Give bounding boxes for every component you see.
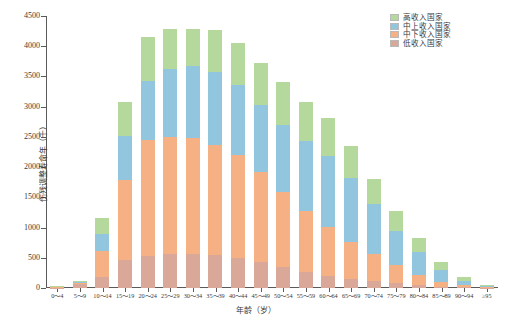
- bar-column[interactable]: [254, 63, 268, 288]
- bar-column[interactable]: [480, 285, 494, 288]
- legend-item[interactable]: 低收入国家: [390, 40, 451, 48]
- bar-segment: [208, 72, 222, 145]
- bar-segment: [412, 285, 426, 288]
- x-tick-label: 55～59: [297, 293, 315, 299]
- y-tick-label: 500: [28, 254, 46, 262]
- bar-column[interactable]: [50, 286, 64, 288]
- bar-segment: [186, 254, 200, 288]
- legend-swatch: [390, 31, 399, 38]
- legend-label: 中下收入国家: [403, 31, 451, 39]
- legend: 高收入国家中上收入国家中下收入国家低收入国家: [390, 14, 451, 47]
- bar-segment: [254, 105, 268, 172]
- bar-segment: [412, 238, 426, 252]
- bar-column[interactable]: [434, 262, 448, 288]
- x-tick-label: 30～34: [184, 293, 202, 299]
- bar-segment: [299, 272, 313, 288]
- bar-segment: [186, 29, 200, 66]
- bar-column[interactable]: [344, 146, 358, 288]
- legend-swatch: [390, 40, 399, 47]
- bar-segment: [276, 82, 290, 125]
- bar-column[interactable]: [231, 43, 245, 288]
- x-tick-label: 25～29: [161, 293, 179, 299]
- y-tick-label: 1000: [24, 224, 46, 232]
- bar-column[interactable]: [412, 238, 426, 288]
- x-tick-label: 70～74: [365, 293, 383, 299]
- y-tick-label: 3500: [24, 72, 46, 80]
- y-tick-label: 0: [36, 284, 46, 292]
- x-axis-line: [46, 287, 498, 288]
- bar-column[interactable]: [73, 281, 87, 288]
- legend-swatch: [390, 14, 399, 21]
- bar-segment: [299, 102, 313, 142]
- bar-segment: [367, 204, 381, 254]
- bar-segment: [141, 37, 155, 82]
- bar-segment: [276, 192, 290, 268]
- x-tick-label: 15～19: [116, 293, 134, 299]
- bar-segment: [321, 276, 335, 288]
- y-axis-title: 伤残调整寿命年（千）: [37, 122, 48, 202]
- x-tick-label: 90～94: [455, 293, 473, 299]
- bar-column[interactable]: [163, 29, 177, 288]
- bar-segment: [344, 279, 358, 288]
- x-tick-label: 10～14: [93, 293, 111, 299]
- bar-column[interactable]: [208, 30, 222, 288]
- bar-segment: [321, 118, 335, 155]
- bar-segment: [118, 102, 132, 136]
- x-axis-title: 年龄（岁）: [0, 304, 512, 315]
- bar-segment: [118, 260, 132, 288]
- chart-container: 050010001500200025003000350040004500 0～4…: [0, 0, 512, 324]
- bar-segment: [95, 218, 109, 234]
- bar-segment: [208, 30, 222, 72]
- bar-column[interactable]: [389, 211, 403, 288]
- plot-area: 050010001500200025003000350040004500 0～4…: [46, 16, 498, 288]
- bar-column[interactable]: [186, 29, 200, 288]
- bar-segment: [344, 242, 358, 279]
- bar-segment: [95, 234, 109, 252]
- x-tick-label: 5～9: [74, 293, 86, 299]
- legend-label: 高收入国家: [403, 14, 443, 22]
- legend-item[interactable]: 高收入国家: [390, 14, 451, 22]
- bar-column[interactable]: [299, 102, 313, 288]
- x-tick-label: 85～89: [432, 293, 450, 299]
- legend-item[interactable]: 中下收入国家: [390, 31, 451, 39]
- bar-segment: [163, 29, 177, 69]
- bar-segment: [389, 231, 403, 266]
- bar-column[interactable]: [276, 82, 290, 288]
- bar-column[interactable]: [118, 102, 132, 288]
- bar-segment: [299, 141, 313, 210]
- bar-segment: [186, 66, 200, 137]
- bar-segment: [118, 136, 132, 180]
- bar-segment: [208, 145, 222, 255]
- x-tick-label: 75～79: [387, 293, 405, 299]
- bar-segment: [95, 251, 109, 276]
- x-tick-label: 40～44: [229, 293, 247, 299]
- bar-segment: [434, 287, 448, 288]
- bar-segment: [344, 146, 358, 178]
- x-tick-label: 60～64: [319, 293, 337, 299]
- bar-segment: [321, 156, 335, 227]
- legend-label: 低收入国家: [403, 40, 443, 48]
- bar-column[interactable]: [457, 277, 471, 288]
- bar-segment: [231, 43, 245, 86]
- bar-segment: [276, 125, 290, 192]
- bar-segment: [141, 81, 155, 139]
- bar-segment: [141, 140, 155, 256]
- bar-segment: [367, 254, 381, 281]
- bar-column[interactable]: [321, 118, 335, 288]
- bar-segment: [254, 172, 268, 262]
- bar-segment: [231, 258, 245, 288]
- bar-segment: [299, 211, 313, 273]
- legend-swatch: [390, 23, 399, 30]
- bar-column[interactable]: [141, 37, 155, 288]
- x-tick-label: 80～84: [410, 293, 428, 299]
- bar-segment: [186, 138, 200, 255]
- bar-segment: [367, 281, 381, 288]
- bar-segment: [367, 179, 381, 204]
- x-tick-label: 65～69: [342, 293, 360, 299]
- bar-column[interactable]: [95, 218, 109, 288]
- bar-segment: [254, 262, 268, 288]
- bar-segment: [434, 262, 448, 270]
- y-tick-label: 4500: [24, 12, 46, 20]
- bar-segment: [73, 284, 87, 288]
- bar-column[interactable]: [367, 179, 381, 288]
